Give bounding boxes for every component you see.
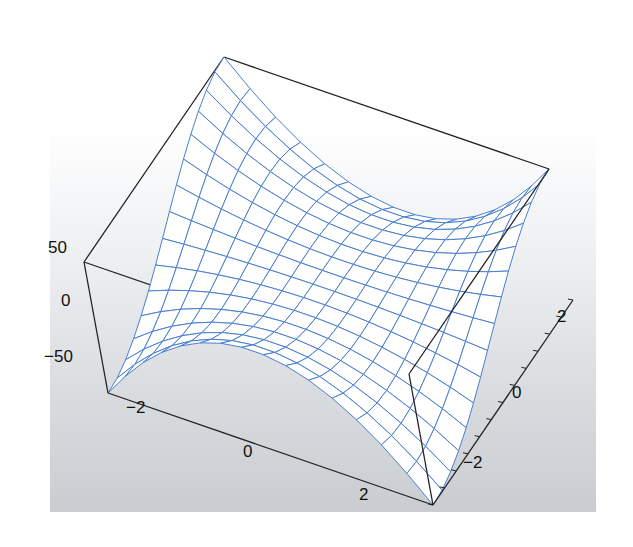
- x-tick-0: 0: [243, 442, 252, 461]
- box-edge: [451, 470, 456, 471]
- surface-plot: 50 0 −50 −2 0 2 −2 0 2: [0, 0, 633, 547]
- box-edge: [84, 262, 108, 393]
- z-tick-neg50: −50: [44, 347, 73, 366]
- box-edge: [498, 402, 503, 403]
- y-tick-0: 0: [512, 383, 521, 402]
- box-edge: [486, 419, 491, 420]
- box-edge: [568, 299, 573, 300]
- box-edge: [545, 333, 550, 334]
- z-axis-ticks: 50 0 −50: [44, 238, 73, 366]
- x-tick-2: 2: [359, 485, 368, 504]
- wireframe-surface: [108, 57, 549, 505]
- box-edge: [475, 436, 480, 437]
- x-axis-ticks: −2 0 2: [126, 398, 368, 504]
- z-tick-50: 50: [48, 238, 67, 257]
- y-tick-neg2: −2: [463, 453, 482, 472]
- x-tick-neg2: −2: [126, 398, 145, 417]
- box-edge: [521, 367, 526, 368]
- box-edge: [533, 350, 538, 351]
- z-tick-0: 0: [61, 291, 70, 310]
